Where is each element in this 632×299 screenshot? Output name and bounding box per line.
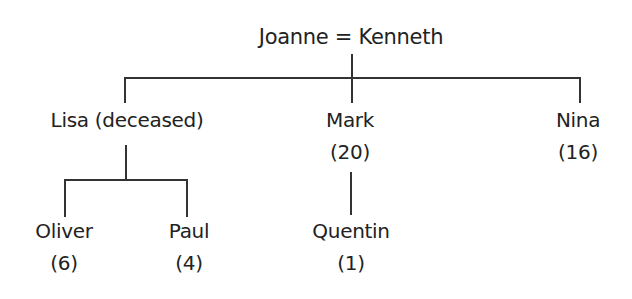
lisa-stem-line xyxy=(125,145,127,179)
grandchild-age-quentin: (1) xyxy=(337,253,364,273)
grandchild-name-oliver: Oliver xyxy=(35,221,92,241)
grandchild-age-paul: (4) xyxy=(175,253,202,273)
family-tree-diagram: Joanne = Kenneth Lisa (deceased) Mark (2… xyxy=(0,0,632,299)
root-couple-label: Joanne = Kenneth xyxy=(259,27,443,48)
root-stem-line xyxy=(351,54,353,103)
grandchild-age-oliver: (6) xyxy=(50,253,77,273)
child-name-lisa: Lisa (deceased) xyxy=(51,110,204,130)
lisa-drop-line xyxy=(124,77,126,103)
grandchild-name-quentin: Quentin xyxy=(312,221,389,241)
child-name-mark: Mark xyxy=(326,110,374,130)
child-name-nina: Nina xyxy=(556,110,600,130)
child-age-nina: (16) xyxy=(558,142,598,162)
nina-drop-line xyxy=(579,77,581,103)
child-age-mark: (20) xyxy=(330,142,370,162)
oliver-drop-line xyxy=(64,179,66,217)
lisa-children-bar-line xyxy=(64,179,187,181)
generation1-bar-line xyxy=(124,77,580,79)
paul-drop-line xyxy=(186,179,188,217)
quentin-drop-line xyxy=(350,172,352,215)
grandchild-name-paul: Paul xyxy=(169,221,209,241)
